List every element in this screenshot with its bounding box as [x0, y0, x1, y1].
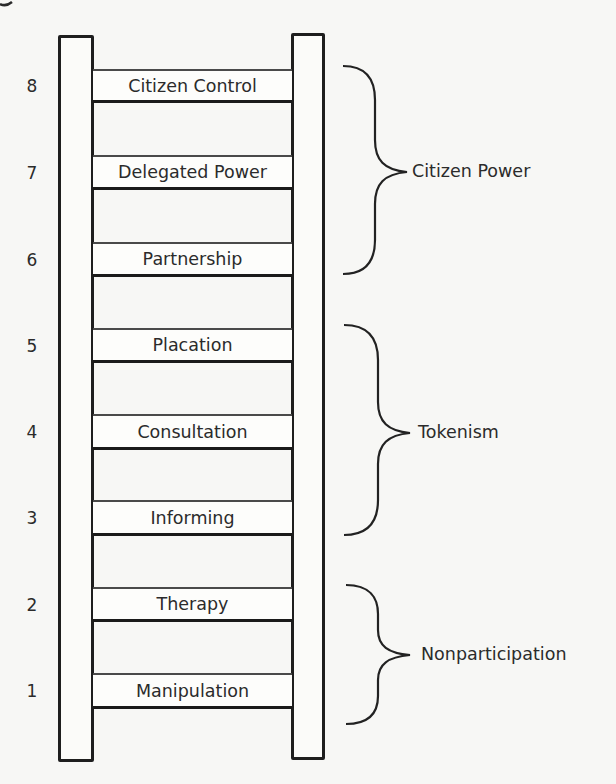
ladder-of-participation-diagram: Citizen Control Delegated Power Partners… [0, 0, 616, 784]
group-label-nonparticipation: Nonparticipation [421, 644, 566, 664]
brace-tokenism-icon [344, 325, 410, 535]
group-label-citizen-power: Citizen Power [412, 161, 530, 181]
group-label-tokenism: Tokenism [418, 422, 499, 442]
brace-citizen-power-icon [343, 66, 407, 274]
group-braces [0, 0, 616, 784]
brace-nonparticipation-icon [346, 585, 410, 724]
